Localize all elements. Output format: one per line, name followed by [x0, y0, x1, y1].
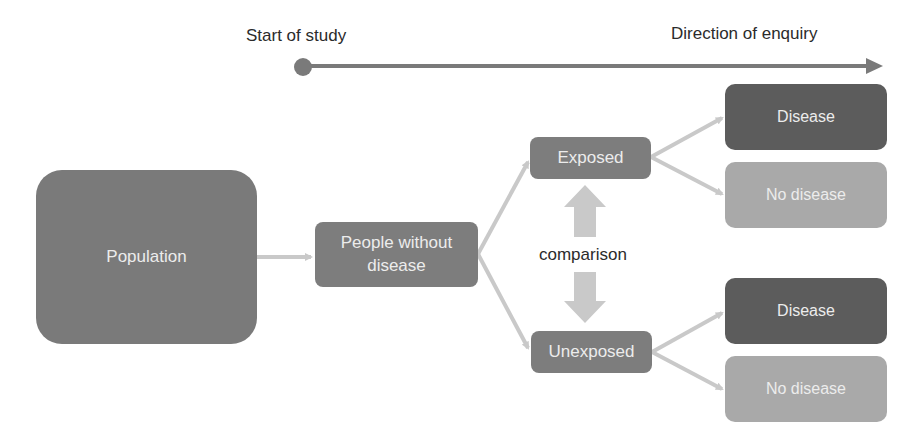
exposed-no-disease-box: No disease — [725, 162, 887, 228]
unexposed-no-disease-label: No disease — [766, 379, 846, 400]
exposed-disease-box: Disease — [725, 84, 887, 150]
population-label: Population — [106, 246, 186, 268]
people-without-disease-box: People without disease — [315, 222, 478, 287]
comparison-down-arrow-icon — [564, 272, 606, 323]
population-box: Population — [36, 170, 257, 344]
unexposed-disease-label: Disease — [777, 301, 835, 322]
unexposed-no-disease-box: No disease — [725, 356, 887, 422]
unexposed-box: Unexposed — [531, 331, 652, 373]
arrow-unexposed-to-no-disease — [652, 352, 722, 389]
people-without-disease-label: People without disease — [329, 232, 464, 276]
arrow-exposed-to-disease — [651, 118, 722, 157]
exposed-box: Exposed — [530, 137, 651, 179]
comparison-up-arrow-icon — [564, 185, 606, 237]
arrow-people-to-exposed — [478, 162, 528, 254]
start-of-study-label: Start of study — [246, 26, 346, 46]
arrow-unexposed-to-disease — [652, 313, 722, 352]
exposed-no-disease-label: No disease — [766, 185, 846, 206]
arrow-people-to-unexposed — [478, 254, 528, 348]
unexposed-label: Unexposed — [548, 341, 634, 363]
timeline-arrowhead-icon — [866, 58, 883, 74]
direction-of-enquiry-label: Direction of enquiry — [671, 24, 817, 44]
exposed-label: Exposed — [557, 147, 623, 169]
arrow-exposed-to-no-disease — [651, 157, 722, 194]
exposed-disease-label: Disease — [777, 107, 835, 128]
timeline — [294, 58, 883, 76]
unexposed-disease-box: Disease — [725, 278, 887, 344]
comparison-label: comparison — [539, 245, 627, 265]
timeline-start-dot-icon — [294, 58, 312, 76]
